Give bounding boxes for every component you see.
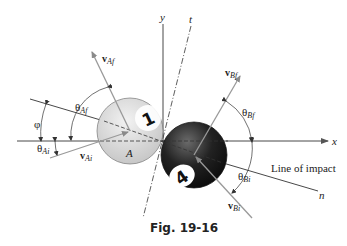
label-theta-bi: θBi [238,170,250,184]
arc-theta-bi [232,142,252,193]
line-of-impact-left [30,99,104,121]
arc-theta-ai [55,141,57,155]
ball-a-label: A [125,147,133,159]
figure-caption: Fig. 19-16 [150,221,218,235]
label-phi: φ [34,118,40,130]
y-axis-label: y [159,11,165,23]
label-theta-ai: θAi [37,142,49,156]
x-axis-label: x [331,135,337,147]
label-theta-bf: θBf [242,106,256,120]
label-vBi: vBi [228,200,240,213]
label-vBf: vBf [225,67,239,80]
label-vAi: vAi [80,150,92,163]
arc-phi [41,104,46,141]
t-axis-label: t [189,13,193,25]
arc-theta-bf [226,101,252,141]
ball-b: 4 [161,122,227,191]
collision-diagram: x y t n Line of impact 1 A 4 vAf vBf vAi… [0,0,347,246]
n-axis-label: n [319,189,325,201]
label-vAf: vAf [102,53,116,66]
line-of-impact-label: Line of impact [271,162,336,174]
